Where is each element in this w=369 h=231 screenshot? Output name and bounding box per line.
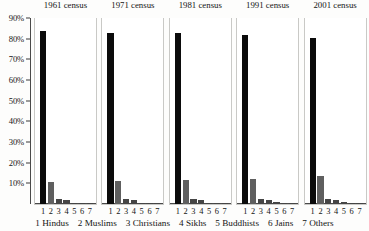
legend-item: 1 Hindus [35,218,68,228]
bar [266,200,272,204]
bar [341,202,347,204]
bar [222,203,228,204]
census-group: 1991 census1234567 [236,14,299,205]
bar [281,203,287,204]
x-axis-tick-label: 4 [334,207,338,216]
bar [139,203,145,204]
legend-item: 6 Jains [268,218,293,228]
legend-item: 7 Others [302,218,333,228]
x-axis-tick-label: 6 [350,207,354,216]
y-axis-tick-mark [26,59,30,60]
x-axis-tick-label: 1 [108,207,112,216]
census-group: 1961 census1234567 [34,14,97,205]
x-axis-tick-label: 4 [64,207,68,216]
census-group: 1981 census1234567 [169,14,232,205]
census-group-title: 1991 census [236,0,299,10]
y-axis-tick-mark [26,162,30,163]
y-axis-tick-label: 40% [9,116,24,126]
x-axis-tick-label: 7 [290,207,294,216]
bar-set [242,18,295,204]
bar [115,181,121,204]
bar [198,200,204,204]
x-axis-tick-label: 5 [140,207,144,216]
y-axis-tick-mark [26,183,30,184]
legend-item: 4 Sikhs [179,218,206,228]
bar [131,200,137,204]
chart-legend: 1 Hindus2 Muslims3 Christians4 Sikhs5 Bu… [0,216,369,230]
x-axis-tick-label: 3 [191,207,195,216]
y-axis-tick-label: 70% [9,54,24,64]
census-group-title: 1971 census [101,0,164,10]
x-axis-tick-label: 2 [184,207,188,216]
x-axis-tick-label: 6 [215,207,219,216]
x-axis-tick-label: 4 [267,207,271,216]
x-axis-tick-label: 3 [326,207,330,216]
x-axis-tick-label: 2 [116,207,120,216]
bar [79,203,85,204]
bar [48,182,54,204]
y-axis-tick-mark [26,80,30,81]
bar [325,199,331,204]
y-axis-tick-label: 60% [9,75,24,85]
y-axis-tick-label: 50% [9,96,24,106]
bar [206,203,212,204]
y-axis-tick-mark [26,142,30,143]
census-group-title: 2001 census [304,0,367,10]
bar [250,179,256,204]
bar [356,203,362,204]
x-axis-tick-label: 3 [259,207,263,216]
bar [87,203,93,204]
x-axis-tick-label: 1 [176,207,180,216]
bar [40,31,46,204]
x-axis-tick-label: 7 [155,207,159,216]
bar [273,202,279,204]
x-axis-tick-label: 3 [57,207,61,216]
bar [214,203,220,204]
bar [317,176,323,204]
bar [107,33,113,204]
x-axis-tick-label: 6 [282,207,286,216]
census-religion-bar-chart: 90%80%70%60%50%40%30%20%10% 1961 census1… [0,0,369,231]
bar [71,203,77,204]
x-axis-tick-label: 1 [41,207,45,216]
bar [242,35,248,204]
x-axis-tick-label: 7 [357,207,361,216]
y-axis-tick-label: 10% [9,178,24,188]
x-axis-tick-label: 7 [223,207,227,216]
census-group-title: 1981 census [169,0,232,10]
y-axis-tick-label: 80% [9,34,24,44]
y-axis-tick-mark [26,38,30,39]
x-axis-tick-label: 4 [132,207,136,216]
x-axis-tick-label: 2 [251,207,255,216]
x-axis-tick-label: 5 [274,207,278,216]
bar [63,200,69,204]
census-group: 1971 census1234567 [101,14,164,205]
bar-set [40,18,93,204]
bar [258,199,264,204]
y-axis-tick-mark [26,121,30,122]
bar [349,203,355,204]
x-axis-tick-label: 5 [72,207,76,216]
bar [123,199,129,204]
x-axis-tick-label: 2 [49,207,53,216]
x-axis-tick-label: 6 [147,207,151,216]
bar [56,199,62,204]
bar-set [310,18,363,204]
legend-item: 2 Muslims [78,218,117,228]
y-axis-tick-mark [26,100,30,101]
x-axis-tick-label: 2 [318,207,322,216]
bar [154,203,160,204]
bar [175,33,181,204]
bar-set [175,18,228,204]
bar [183,180,189,204]
y-axis: 90%80%70%60%50%40%30%20%10% [0,0,32,231]
y-axis-spine [30,18,31,204]
y-axis-tick-label: 90% [9,13,24,23]
bar [333,200,339,204]
bar [310,38,316,204]
x-axis-tick-label: 5 [207,207,211,216]
bar [190,199,196,204]
census-group-title: 1961 census [34,0,97,10]
x-axis-tick-label: 5 [342,207,346,216]
y-axis-tick-label: 20% [9,158,24,168]
